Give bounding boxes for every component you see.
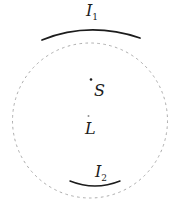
lens-label: L (84, 119, 96, 138)
lens-dot (88, 115, 90, 117)
image1-arc (42, 30, 140, 40)
source-label: S (94, 81, 105, 100)
image1-label-subscript: 1 (92, 12, 98, 22)
image2-label-subscript: 2 (101, 173, 107, 183)
diagram-canvas: I1 I2 S L (0, 0, 182, 208)
image1-label: I1 (85, 1, 98, 22)
image2-label: I2 (94, 162, 107, 183)
source-dot (90, 78, 93, 81)
lensing-diagram: I1 I2 S L (0, 0, 182, 208)
image2-arc (70, 181, 120, 186)
